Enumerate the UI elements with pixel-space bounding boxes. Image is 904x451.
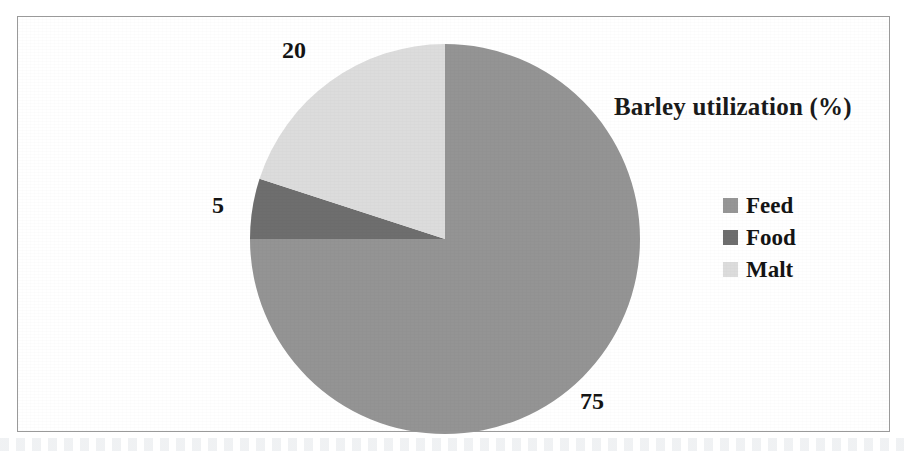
chart-legend: Feed Food Malt	[723, 189, 873, 285]
square-swatch-icon	[723, 262, 738, 277]
legend-item-feed[interactable]: Feed	[723, 189, 873, 221]
data-label-food: 5	[212, 192, 224, 219]
page-bleed-strip	[0, 438, 904, 451]
pie-chart	[250, 44, 640, 434]
legend-item-malt[interactable]: Malt	[723, 253, 873, 285]
pie-svg	[250, 44, 640, 434]
screenshot-root: Barley utilization (%) Feed Food Malt 20…	[0, 0, 904, 451]
data-label-malt: 20	[282, 37, 306, 64]
square-swatch-icon	[723, 230, 738, 245]
legend-item-food[interactable]: Food	[723, 221, 873, 253]
legend-label-malt: Malt	[746, 258, 793, 281]
data-label-feed: 75	[580, 388, 604, 415]
chart-title: Barley utilization (%)	[614, 93, 852, 121]
legend-label-food: Food	[746, 226, 796, 249]
chart-frame: Barley utilization (%) Feed Food Malt 20…	[17, 16, 890, 432]
square-swatch-icon	[723, 198, 738, 213]
legend-label-feed: Feed	[746, 194, 793, 217]
